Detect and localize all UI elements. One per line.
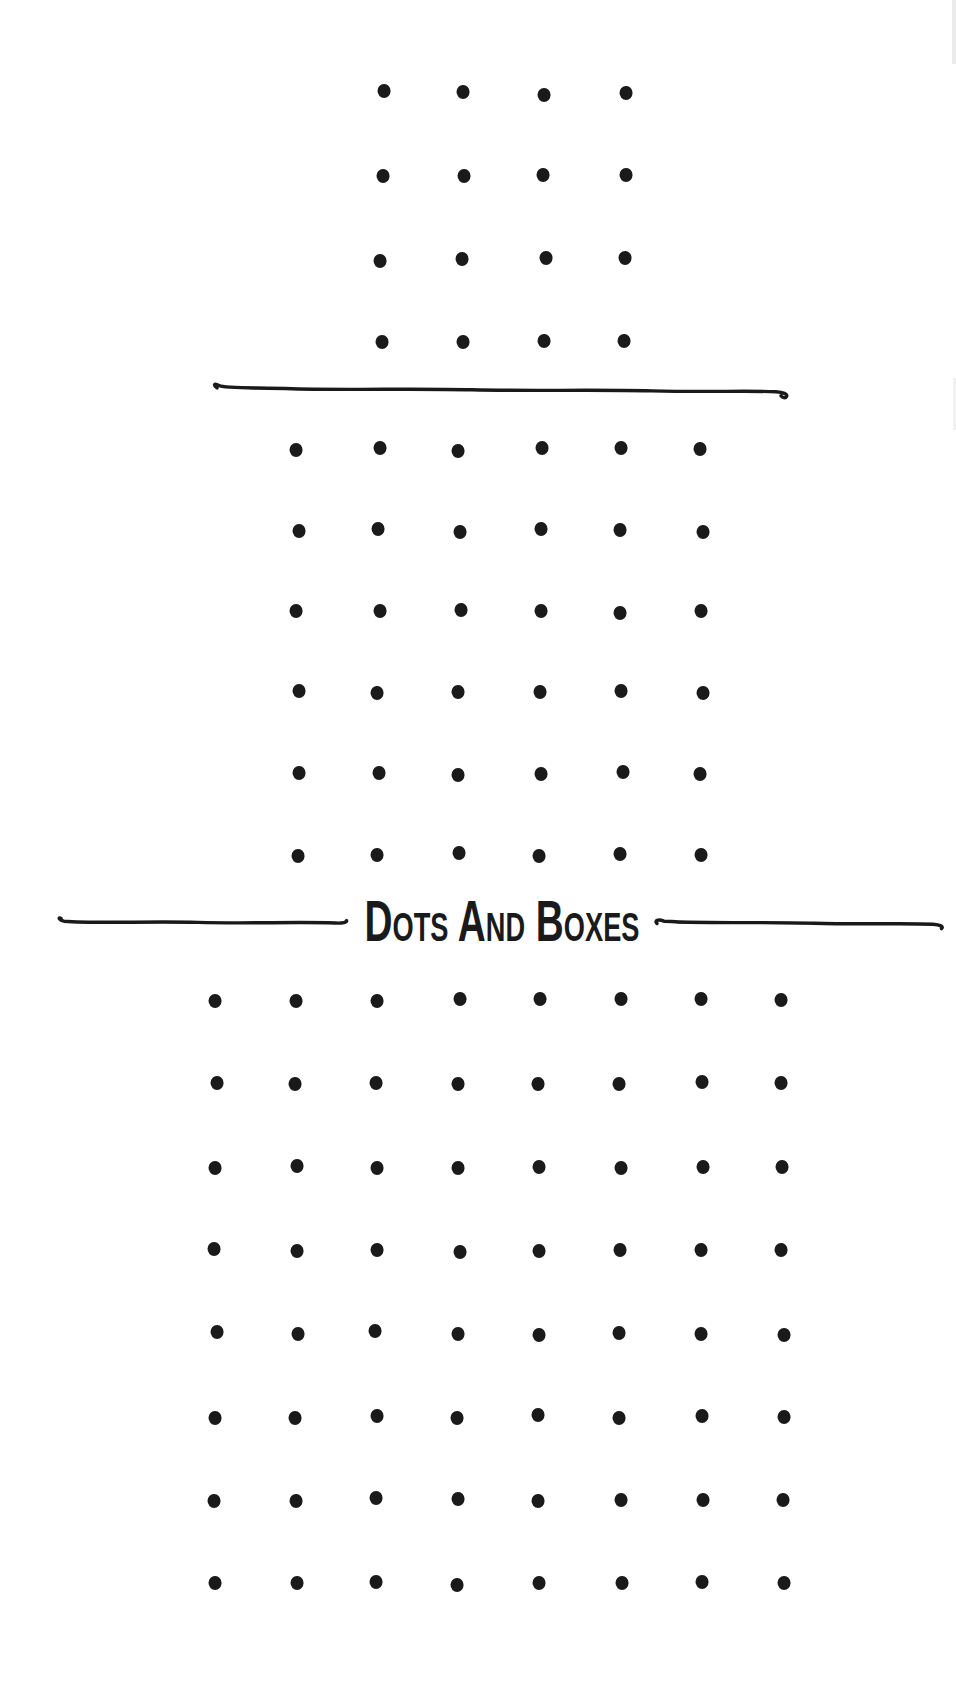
dot [451,1578,464,1592]
dot [775,993,788,1007]
dot [370,1076,383,1090]
dot [452,1327,465,1341]
dot [457,169,470,183]
dot [615,684,628,698]
book-page: Dots And Boxes [0,0,956,1693]
dot [452,768,465,782]
dot [694,767,707,781]
dot [208,1242,221,1256]
dot [538,334,551,348]
dot [696,1409,709,1423]
dot [452,1492,465,1506]
dot [208,1161,221,1175]
dot [293,684,306,698]
dot [533,1244,546,1258]
dot [377,84,390,98]
dot [695,604,708,618]
dot [291,1159,304,1173]
dot [372,766,385,780]
dot [615,992,628,1006]
dot [777,1493,790,1507]
dot [290,1576,303,1590]
dot [614,441,627,455]
dot [370,994,383,1008]
dot [695,1075,708,1089]
dot [371,1161,384,1175]
dot [695,1575,708,1589]
dot [777,1576,790,1590]
dot [777,1410,790,1424]
dot [694,1243,707,1257]
dot [615,1576,628,1590]
page-title: Dots And Boxes [365,891,640,951]
dot [532,1408,545,1422]
dot [616,765,629,779]
dot [535,522,548,536]
dot [456,85,469,99]
dot [775,1243,788,1257]
dot [373,604,386,618]
dot [694,1327,707,1341]
dot [620,86,633,100]
dot [292,849,305,863]
dot [694,442,707,456]
dot [533,685,546,699]
dot [289,1411,302,1425]
dot [371,686,384,700]
dot [697,525,710,539]
dot [289,1077,302,1091]
dot [613,1411,626,1425]
dot [775,1076,788,1090]
dot [209,1411,222,1425]
dot [377,169,390,183]
dot [775,1160,788,1174]
scan-edge-artifact [952,0,956,64]
dot [538,88,551,102]
dot [532,1328,545,1342]
dot [694,848,707,862]
dot [533,1160,546,1174]
dot [618,251,631,265]
dot [613,606,626,620]
dot [451,444,464,458]
dot [533,992,546,1006]
dot [694,992,707,1006]
dot [532,1494,545,1508]
dot [371,1243,384,1257]
dot [535,604,548,618]
dot [696,1160,709,1174]
dot [454,603,467,617]
dot [369,1575,382,1589]
dot [370,1491,383,1505]
dot [451,1161,464,1175]
dot [614,1493,627,1507]
dot [777,1328,790,1342]
dot [457,335,470,349]
dot [290,443,303,457]
dot [290,994,303,1008]
dot [289,1494,302,1508]
dot [209,1576,222,1590]
dot [614,847,627,861]
separator-line [210,380,794,402]
dot [208,1494,221,1508]
dot [614,523,627,537]
dot [456,252,469,266]
dot [209,994,222,1008]
dot [451,1077,464,1091]
dot [612,1077,625,1091]
title-right-line [652,914,948,934]
dot [535,767,548,781]
dot [374,441,387,455]
dot [532,1077,545,1091]
dot [613,1326,626,1340]
dot [291,1327,304,1341]
title-left-line [56,912,352,932]
dot [618,334,631,348]
dot [615,1161,628,1175]
dot [533,1576,546,1590]
dot [536,441,549,455]
dot [532,849,545,863]
dot [371,848,384,862]
dot [374,254,387,268]
